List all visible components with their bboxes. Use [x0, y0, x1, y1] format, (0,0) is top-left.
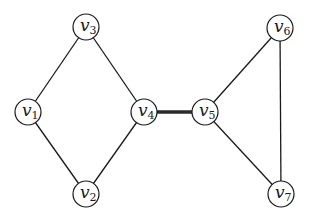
node-v4: v4 [131, 99, 157, 125]
node-subscript: 3 [90, 24, 97, 37]
graph-diagram: v1v2v3v4v5v6v7 [0, 0, 312, 220]
node-v7: v7 [268, 181, 294, 207]
edge-v1-v3 [28, 27, 86, 112]
node-subscript: 6 [284, 25, 291, 38]
nodes-layer: v1v2v3v4v5v6v7 [15, 14, 294, 207]
node-v2: v2 [73, 181, 99, 207]
node-subscript: 1 [32, 109, 39, 122]
edge-v2-v4 [86, 112, 144, 194]
edge-v5-v6 [205, 28, 280, 112]
node-subscript: 4 [148, 109, 155, 122]
node-subscript: 5 [209, 109, 216, 122]
node-subscript: 2 [90, 191, 97, 204]
node-v5: v5 [192, 99, 218, 125]
node-v6: v6 [267, 15, 293, 41]
node-v1: v1 [15, 99, 41, 125]
node-v3: v3 [73, 14, 99, 40]
edge-v1-v2 [28, 112, 86, 194]
edge-v3-v4 [86, 27, 144, 112]
edge-v5-v7 [205, 112, 281, 194]
node-subscript: 7 [285, 191, 292, 204]
edge-v6-v7 [280, 28, 281, 194]
